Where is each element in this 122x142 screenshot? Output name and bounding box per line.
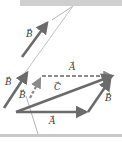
arrow-mark-c: → [55,79,59,85]
arrow-mark-b-left: → [6,74,10,80]
string-top-long [22,6,73,77]
string-top-left [52,6,73,20]
arrow-mark-a-dashed: → [70,59,74,65]
arrow-mark-b-right: → [106,90,110,96]
vector-b-dashed [30,79,40,98]
diagram-canvas: B → B → B → A → C → A → B → A [0,0,122,142]
arrow-mark-b-top: → [27,26,31,32]
arrow-mark-a-bottom: → [50,113,54,119]
arrow-mark-b-dashed: → [20,87,24,93]
top-surface [20,0,122,6]
string-bottom [26,96,38,134]
bottom-surface [0,134,122,137]
vector-diagram: B → B → B → A → C → A → B → A [0,0,122,142]
vector-c [16,76,112,112]
